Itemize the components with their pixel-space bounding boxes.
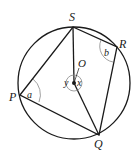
angle-arc-a <box>33 79 40 102</box>
label-angle-a: a <box>27 89 32 100</box>
label-s: S <box>69 10 75 24</box>
circle-diagram: S R Q P O a b x y <box>0 0 140 150</box>
label-q: Q <box>94 137 103 150</box>
label-p: P <box>8 90 17 104</box>
label-angle-x: x <box>76 77 82 88</box>
radius-oq <box>74 83 99 135</box>
label-angle-y: y <box>63 77 69 88</box>
label-angle-b: b <box>104 47 109 58</box>
label-o: O <box>78 57 86 69</box>
label-r: R <box>118 37 127 51</box>
radius-os <box>73 27 74 83</box>
